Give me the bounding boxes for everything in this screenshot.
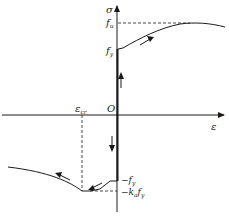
epsilon-label: ε	[211, 121, 216, 132]
neg-ka-fy-label: −kafy	[121, 187, 145, 199]
sigma-label: σ	[106, 4, 114, 15]
tension-curve	[118, 23, 225, 49]
fu-label: fu	[105, 17, 114, 29]
eps-cr-label: εcr	[75, 103, 88, 115]
neg-fy-label: −fy	[121, 175, 136, 187]
compression-curve	[8, 167, 117, 191]
arrow-down-icon	[109, 136, 115, 152]
arrow-up-icon	[118, 72, 124, 88]
origin-label: O	[107, 103, 115, 114]
fy-label: fy	[105, 45, 114, 58]
arrow-softening-icon	[55, 172, 70, 180]
stress-strain-diagram: σ ε O fu fy −fy −kafy εcr	[0, 0, 229, 218]
